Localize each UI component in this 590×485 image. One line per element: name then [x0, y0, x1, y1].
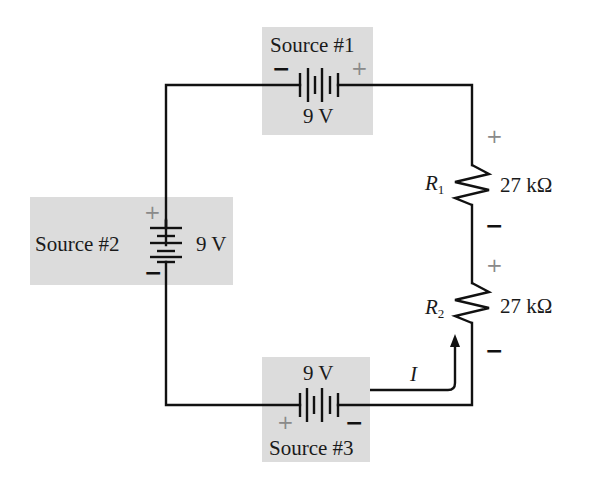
source-2-plus-sign: +	[144, 202, 161, 222]
battery-source-3-icon	[300, 388, 338, 422]
resistor-r2-icon	[455, 283, 489, 323]
source-3-voltage: 9 V	[303, 363, 334, 384]
battery-source-1-icon	[300, 68, 338, 102]
current-label: I	[410, 364, 417, 385]
wire-top-left	[166, 85, 300, 245]
wire-bottom-right	[338, 323, 472, 405]
r1-minus-sign: −	[485, 215, 503, 237]
wire-top-right	[338, 85, 472, 165]
source-3-plus-sign: +	[277, 412, 294, 432]
source-1-label: Source #1	[270, 35, 355, 56]
r1-plus-sign: +	[486, 126, 503, 146]
resistor-r1-icon	[455, 165, 489, 205]
r2-plus-sign: +	[486, 255, 503, 275]
source-1-plus-sign: +	[351, 58, 368, 78]
r2-name: R2	[425, 297, 444, 320]
source-1-voltage: 9 V	[303, 106, 334, 127]
r2-minus-sign: −	[485, 340, 503, 362]
wire-bottom-left	[166, 262, 300, 405]
r1-value: 27 kΩ	[500, 175, 552, 196]
r2-value: 27 kΩ	[500, 296, 552, 317]
source-2-label: Source #2	[35, 234, 120, 255]
source-3-minus-sign: −	[345, 412, 363, 434]
source-3-label: Source #3	[269, 438, 354, 459]
source-2-voltage: 9 V	[196, 234, 227, 255]
source-1-minus-sign: −	[272, 58, 290, 80]
source-2-minus-sign: −	[144, 262, 162, 284]
r1-name: R1	[425, 173, 444, 196]
